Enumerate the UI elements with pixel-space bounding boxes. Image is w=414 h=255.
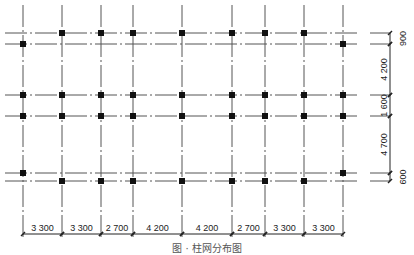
- column-square: [179, 113, 185, 119]
- column-square: [262, 178, 268, 184]
- dimension-label: 600: [398, 169, 408, 184]
- column-square: [229, 92, 235, 98]
- dimension-label: 900: [398, 31, 408, 46]
- column-square: [179, 30, 185, 36]
- column-square: [20, 41, 26, 47]
- column-square: [262, 30, 268, 36]
- column-square: [229, 113, 235, 119]
- column-square: [98, 113, 104, 119]
- column-square: [179, 92, 185, 98]
- dimension-label: 4 200: [379, 58, 389, 81]
- column-square: [301, 30, 307, 36]
- column-square: [130, 30, 136, 36]
- column-square: [130, 113, 136, 119]
- column-square: [130, 178, 136, 184]
- column-square: [229, 30, 235, 36]
- dimension-label: 3 300: [312, 223, 335, 233]
- column-square: [20, 92, 26, 98]
- column-square: [262, 92, 268, 98]
- column-square: [340, 170, 346, 176]
- right-dimension-chain: 9004 2001 6004 700600: [379, 31, 408, 185]
- dimension-label: 4 200: [196, 223, 219, 233]
- dimension-label: 3 300: [70, 223, 93, 233]
- column-square: [301, 178, 307, 184]
- column-square: [98, 92, 104, 98]
- column-square: [59, 113, 65, 119]
- column-square: [130, 92, 136, 98]
- column-square: [262, 113, 268, 119]
- dimension-label: 3 300: [31, 223, 54, 233]
- column-square: [20, 113, 26, 119]
- column-square: [301, 92, 307, 98]
- figure-caption: 图 · 柱网分布图: [172, 242, 242, 254]
- bottom-dimension-chain: 3 3003 3002 7004 2004 2002 7003 3003 300: [21, 223, 345, 236]
- structural-columns: [20, 30, 346, 184]
- column-square: [20, 170, 26, 176]
- horizontal-axis-lines: [5, 33, 390, 181]
- column-square: [229, 178, 235, 184]
- dimension-label: 4 200: [146, 223, 169, 233]
- column-square: [301, 113, 307, 119]
- column-square: [98, 178, 104, 184]
- column-square: [59, 30, 65, 36]
- column-square: [340, 41, 346, 47]
- column-square: [340, 113, 346, 119]
- column-square: [59, 178, 65, 184]
- column-square: [98, 30, 104, 36]
- dimension-label: 1 600: [379, 94, 389, 117]
- column-grid-diagram: 3 3003 3002 7004 2004 2002 7003 3003 300…: [0, 0, 414, 255]
- column-square: [59, 92, 65, 98]
- dimension-label: 2 700: [106, 223, 129, 233]
- dimension-label: 4 700: [379, 133, 389, 156]
- dimension-label: 2 700: [237, 223, 260, 233]
- dimension-label: 3 300: [273, 223, 296, 233]
- column-square: [179, 178, 185, 184]
- column-square: [340, 92, 346, 98]
- vertical-axis-lines: [23, 5, 343, 237]
